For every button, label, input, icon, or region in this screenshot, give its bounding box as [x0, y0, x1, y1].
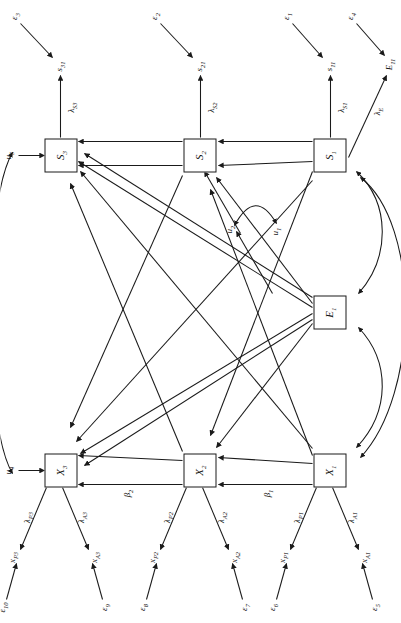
error-epsilon3: ε3 [9, 13, 20, 20]
latent-node-s3[interactable]: S3 [44, 138, 77, 172]
latent-node-e1-label: E1 [322, 307, 337, 317]
latent-node-x3[interactable]: X3 [44, 453, 77, 487]
latent-node-x1[interactable]: X1 [313, 453, 346, 487]
indicator-xa2: xA2 [229, 551, 240, 562]
error-epsilon2: ε2 [149, 13, 160, 20]
indicator-xp3: xP3 [7, 551, 18, 562]
indicator-s11: s11 [324, 61, 335, 71]
latent-node-s1[interactable]: S1 [313, 138, 346, 172]
error-epsilon1: ε1 [281, 13, 292, 20]
loading-lambda-s2: λS2 [206, 102, 217, 112]
latent-node-s2-label: S2 [192, 151, 207, 160]
loading-lambda-p2: λP2 [162, 512, 173, 523]
latent-node-x3-label: X3 [53, 465, 68, 475]
path-beta2: β2 [122, 489, 133, 497]
sem-diagram: X3 X2 X1 E1 S3 S2 S1 u4 u5 u1 u2 [0, 0, 401, 623]
error-epsilon10: ε10 [0, 602, 9, 612]
indicator-e11: E11 [384, 58, 395, 70]
loading-lambda-p1: λP1 [292, 512, 303, 523]
loading-lambda-a3: λA3 [76, 512, 87, 523]
error-epsilon6: ε6 [267, 604, 278, 611]
loading-lambda-a2: λA2 [216, 512, 227, 523]
error-epsilon4: ε4 [345, 13, 356, 20]
disturbance-u5: u5 [3, 151, 14, 159]
indicator-xa3: xA3 [89, 551, 100, 562]
disturbance-u1: u1 [270, 227, 281, 235]
indicator-s21: s21 [194, 61, 205, 71]
disturbance-u4: u4 [3, 466, 14, 474]
latent-node-x1-label: X1 [322, 465, 337, 475]
loading-lambda-a1: λA1 [346, 512, 357, 523]
error-epsilon8: ε8 [137, 604, 148, 611]
loading-lambda-s1: λS1 [336, 102, 347, 112]
latent-node-e1[interactable]: E1 [313, 295, 346, 329]
latent-node-s2[interactable]: S2 [183, 138, 216, 172]
indicator-xp2: xP2 [147, 551, 158, 562]
figure-canvas: X3 X2 X1 E1 S3 S2 S1 u4 u5 u1 u2 [0, 0, 401, 623]
loading-lambda-e: λE [372, 107, 383, 115]
indicator-xp1: xP1 [277, 551, 288, 562]
error-epsilon7: ε7 [239, 604, 250, 611]
latent-node-s1-label: S1 [322, 151, 337, 160]
error-epsilon9: ε9 [99, 604, 110, 611]
latent-node-x2[interactable]: X2 [183, 453, 216, 487]
latent-node-s3-label: S3 [53, 151, 68, 160]
disturbance-u2: u2 [224, 225, 235, 233]
error-epsilon5: ε5 [369, 604, 380, 611]
loading-lambda-s3: λS3 [66, 102, 77, 112]
latent-node-x2-label: X2 [192, 465, 207, 475]
loading-lambda-p3: λP3 [22, 512, 33, 523]
indicator-s31: s31 [54, 61, 65, 71]
indicator-xa1: xA1 [359, 551, 370, 562]
path-beta1: β1 [262, 489, 273, 497]
